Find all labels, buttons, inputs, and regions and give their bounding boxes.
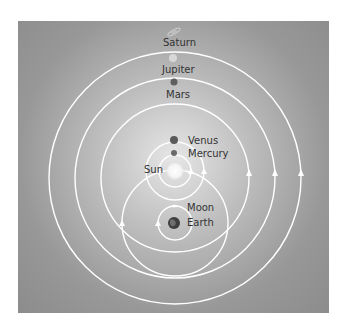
mars-label: Mars <box>166 90 190 100</box>
mercury-icon <box>171 150 177 156</box>
mercury-label: Mercury <box>188 149 229 159</box>
sun-icon <box>164 160 186 182</box>
diagram-frame: Saturn Jupiter Mars Venus Mercury Sun Mo… <box>18 21 329 313</box>
saturn-icon <box>167 27 181 37</box>
jupiter-label: Jupiter <box>162 65 195 75</box>
moon-icon <box>173 205 176 208</box>
jupiter-icon <box>169 54 177 62</box>
earth-label: Earth <box>187 218 214 228</box>
saturn-label: Saturn <box>163 38 196 48</box>
sun-label: Sun <box>144 165 163 175</box>
mars-icon <box>171 79 178 86</box>
venus-icon <box>170 136 178 144</box>
moon-label: Moon <box>187 203 214 213</box>
venus-label: Venus <box>188 136 218 146</box>
